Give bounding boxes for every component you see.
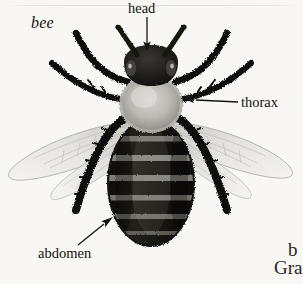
leg-left-front bbox=[76, 33, 128, 82]
label-thorax: thorax bbox=[241, 95, 278, 110]
bee-head bbox=[115, 24, 186, 86]
bee-illustration bbox=[0, 0, 303, 284]
label-abdomen: abdomen bbox=[38, 246, 91, 261]
bee-abdomen bbox=[107, 119, 195, 247]
figure-plate: bee head thorax abdomen b Gra bbox=[0, 0, 303, 284]
leg-right-front bbox=[175, 33, 227, 82]
arrow-thorax-pointer bbox=[184, 96, 238, 103]
column-bleed-line-2: Gra bbox=[274, 258, 302, 277]
leg-left-middle bbox=[52, 63, 124, 100]
arrow-abdomen-pointer bbox=[78, 217, 113, 245]
headword-bee: bee bbox=[31, 15, 54, 31]
label-head: head bbox=[128, 1, 155, 16]
